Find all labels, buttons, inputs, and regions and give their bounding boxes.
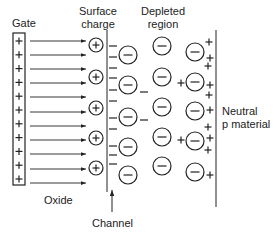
surface-positive-charge	[89, 131, 103, 145]
surface-charge-label-line2: charge	[78, 18, 118, 31]
oxide-label: Oxide	[44, 194, 73, 207]
depleted-region-label-line1: Depleted	[138, 5, 188, 18]
ionized-acceptor	[186, 43, 204, 61]
hole	[178, 80, 185, 87]
neutral-label-line2: p material	[222, 118, 270, 131]
hole	[206, 92, 213, 99]
ionized-acceptor	[119, 76, 137, 94]
ionized-acceptor	[153, 157, 171, 175]
ionized-acceptor	[119, 108, 137, 126]
hole	[205, 124, 212, 131]
gate-plus-charge	[16, 51, 23, 58]
ionized-acceptor	[153, 68, 171, 86]
surface-positive-charge	[89, 70, 103, 84]
gate-plus-charge	[16, 134, 23, 141]
gate-plus-charge	[16, 148, 23, 155]
hole	[205, 63, 212, 70]
hole	[205, 147, 212, 154]
hole	[178, 137, 185, 144]
hole	[207, 135, 214, 142]
gate-plus-charge	[16, 176, 23, 183]
gate-plus-charge	[16, 107, 23, 114]
gate-plus-charge	[16, 65, 23, 72]
hole	[207, 107, 214, 114]
hole	[207, 82, 214, 89]
hole	[207, 172, 214, 179]
ionized-acceptor	[186, 73, 204, 91]
gate-label: Gate	[12, 17, 36, 30]
hole	[206, 39, 213, 46]
holes	[178, 39, 214, 179]
depleted-region-label: Depleted region	[138, 5, 188, 31]
gate-plus-charge	[16, 120, 23, 127]
surface-positive-charge	[89, 38, 103, 52]
depleted-region-label-line2: region	[138, 18, 188, 31]
channel-label: Channel	[92, 217, 133, 230]
surface-charge-label-line1: Surface	[78, 5, 118, 18]
neutral-p-material-label: Neutral p material	[222, 105, 270, 131]
ionized-acceptor	[186, 132, 204, 150]
surface-positive-charge	[89, 101, 103, 115]
gate-plus-charge	[16, 38, 23, 45]
hole	[207, 55, 214, 62]
ionized-acceptor	[153, 98, 171, 116]
ionized-acceptor	[186, 102, 204, 120]
ionized-acceptors	[119, 37, 204, 184]
surface-charge-label: Surface charge	[78, 5, 118, 31]
gate-electrode	[13, 33, 25, 185]
ionized-acceptor	[153, 37, 171, 55]
electric-field-arrows	[30, 41, 86, 183]
ionized-acceptor	[119, 138, 137, 156]
gate-plus-charge	[16, 93, 23, 100]
ionized-acceptor	[153, 128, 171, 146]
gate-plus-charge	[16, 79, 23, 86]
ionized-acceptor	[119, 166, 137, 184]
ionized-acceptor	[119, 46, 137, 64]
neutral-label-line1: Neutral	[222, 105, 270, 118]
surface-positive-charge	[89, 161, 103, 175]
ionized-acceptor	[186, 163, 204, 181]
gate-plus-charge	[16, 162, 23, 169]
surface-charges	[89, 38, 103, 175]
